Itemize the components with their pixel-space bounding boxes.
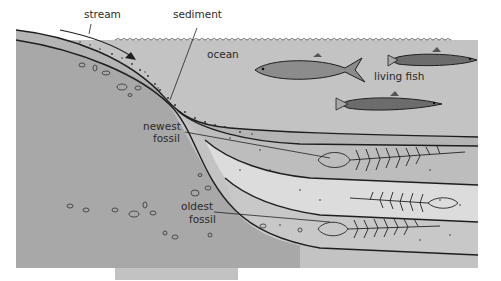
stream-label: stream [84,8,121,20]
newest-fossil-label-line2: fossil [153,132,180,144]
living-fish-label: living fish [374,70,424,82]
newest-fossil-label-line1: newest [143,120,181,132]
oldest-fossil-label-line2: fossil [189,213,216,225]
oldest-fossil-label-line1: oldest [181,200,213,212]
sediment-label: sediment [173,8,222,20]
fossil-formation-diagram [0,0,501,281]
ocean-surface-waves [115,39,451,41]
ocean-label: ocean [207,48,239,60]
stream-leader [89,24,91,34]
